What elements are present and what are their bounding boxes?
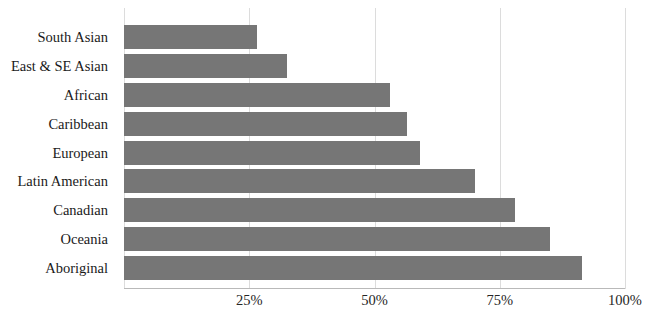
category-label: Aboriginal [0,254,116,283]
bar-row [124,225,625,254]
category-label: Canadian [0,196,116,225]
bar [124,256,582,280]
x-tick-label-100: 100% [608,292,642,309]
gridline-100 [625,8,626,289]
bar [124,227,550,251]
category-label: Oceania [0,225,116,254]
category-label: Caribbean [0,110,116,139]
bar-row [124,196,625,225]
bar [124,169,475,193]
bar [124,141,420,165]
bar [124,54,287,78]
plot-area [124,0,625,320]
bar [124,25,257,49]
bar-row [124,167,625,196]
bar-row [124,23,625,52]
bar-series [124,23,625,283]
bar-chart: South Asian East & SE Asian African Cari… [0,0,659,320]
x-tick-label-50: 50% [361,292,388,309]
category-label: South Asian [0,23,116,52]
category-label: East & SE Asian [0,52,116,81]
category-label: European [0,139,116,168]
bar-row [124,81,625,110]
bar-row [124,52,625,81]
bar-row [124,254,625,283]
bar [124,83,390,107]
bar-row [124,110,625,139]
x-axis-line [124,288,625,289]
x-axis-tick-labels: 25% 50% 75% 100% [0,292,659,318]
category-axis-labels: South Asian East & SE Asian African Cari… [0,23,116,283]
category-label: African [0,81,116,110]
bar [124,198,515,222]
x-tick-label-75: 75% [486,292,513,309]
bar-row [124,139,625,168]
category-label: Latin American [0,167,116,196]
x-tick-label-25: 25% [236,292,263,309]
bar [124,112,407,136]
